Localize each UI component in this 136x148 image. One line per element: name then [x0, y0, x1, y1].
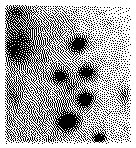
stipple-image-plate: [0, 0, 136, 148]
image-viewport: [0, 0, 136, 148]
stippled-grayscale-field-canvas: [0, 0, 136, 148]
